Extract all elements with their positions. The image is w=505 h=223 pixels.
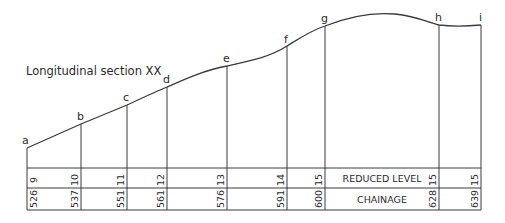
point-label-d: d [163,73,170,86]
chainage-values: 526 537 551 561 576 591 600 628 639 [28,190,480,208]
chainage-row-label: CHAINAGE [357,194,407,205]
diagram-title: Longitudinal section XX [26,64,161,78]
longitudinal-section-diagram: Longitudinal section XX a b c d e f g h … [0,0,505,223]
reduced-level-f: 14 [275,174,286,186]
chainage-a: 526 [28,190,39,208]
point-label-i: i [479,11,482,24]
data-table: REDUCED LEVEL CHAINAGE 9 10 11 12 13 14 … [27,168,481,210]
point-label-b: b [77,110,84,123]
chainage-h: 628 [427,190,438,208]
reduced-level-c: 11 [115,174,126,186]
chainage-e: 576 [215,190,226,208]
reduced-level-h: 15 [427,174,438,186]
chainage-f: 591 [275,190,286,208]
reduced-level-b: 10 [69,174,80,186]
chainage-g: 600 [313,190,324,208]
point-label-g: g [321,12,328,25]
reduced-level-g: 15 [313,174,324,186]
reduced-level-a: 9 [28,177,39,183]
reduced-level-e: 13 [215,174,226,186]
chainage-b: 537 [69,190,80,208]
point-label-h: h [435,11,442,24]
reduced-level-d: 12 [155,174,166,186]
ground-profile-curve [27,14,481,149]
chainage-d: 561 [155,190,166,208]
point-label-a: a [22,134,29,147]
point-label-f: f [284,33,289,46]
reduced-level-i: 15 [469,174,480,186]
point-label-c: c [123,91,129,104]
reduced-level-row-label: REDUCED LEVEL [343,173,423,184]
chainage-i: 639 [469,190,480,208]
point-label-e: e [223,52,230,65]
point-labels: a b c d e f g h i [22,11,482,147]
chainage-c: 551 [115,190,126,208]
